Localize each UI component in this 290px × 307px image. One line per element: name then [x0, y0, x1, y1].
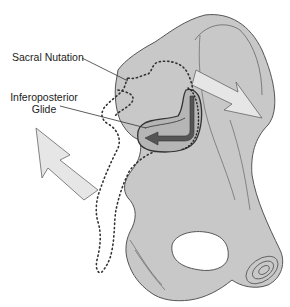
- counternutation-arrow: [36, 128, 98, 200]
- glide-label-line1: Inferoposterior: [9, 91, 79, 103]
- glide-label-line2: Glide: [9, 103, 79, 115]
- sacral-nutation-label: Sacral Nutation: [12, 51, 84, 63]
- sacroiliac-diagram: Sacral Nutation Inferoposterior Glide: [0, 0, 290, 307]
- inferoposterior-glide-label: Inferoposterior Glide: [9, 91, 79, 115]
